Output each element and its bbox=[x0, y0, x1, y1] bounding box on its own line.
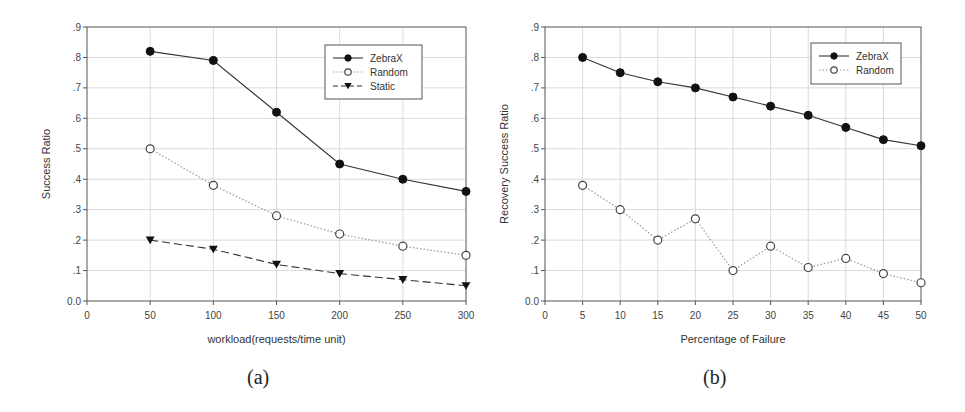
data-point bbox=[209, 181, 217, 189]
y-tick-label: 0.0 bbox=[525, 296, 539, 307]
data-point bbox=[209, 56, 217, 64]
data-point bbox=[146, 47, 154, 55]
x-tick-label: 0 bbox=[84, 310, 90, 321]
x-axis: 05101520253035404550 bbox=[542, 301, 927, 321]
y-axis: 0.0.1.2.3.4.5.6.7.8.9 bbox=[67, 22, 87, 307]
y-tick-label: .4 bbox=[531, 174, 540, 185]
data-point bbox=[767, 102, 775, 110]
data-point bbox=[273, 108, 281, 116]
data-point bbox=[879, 136, 887, 144]
series-line bbox=[583, 185, 921, 282]
legend-label: Random bbox=[856, 65, 894, 76]
data-point bbox=[842, 123, 850, 131]
legend: ZebraXRandom bbox=[811, 43, 901, 84]
data-point bbox=[399, 242, 407, 250]
y-axis-title: Recovery Success Ratio bbox=[498, 104, 510, 224]
x-tick-label: 200 bbox=[331, 310, 348, 321]
data-point bbox=[879, 270, 887, 278]
data-point bbox=[146, 145, 154, 153]
x-tick-label: 40 bbox=[840, 310, 852, 321]
legend-marker bbox=[831, 67, 837, 73]
x-tick-label: 5 bbox=[580, 310, 586, 321]
y-tick-label: .3 bbox=[531, 204, 540, 215]
y-tick-label: .9 bbox=[531, 22, 540, 33]
data-point bbox=[917, 279, 925, 287]
data-point bbox=[336, 160, 344, 168]
data-point bbox=[579, 181, 587, 189]
y-tick-label: .7 bbox=[73, 82, 82, 93]
data-point bbox=[272, 261, 281, 269]
y-tick-label: .1 bbox=[73, 265, 82, 276]
series-static bbox=[146, 237, 471, 290]
data-point bbox=[462, 251, 470, 259]
series-random bbox=[146, 145, 470, 260]
y-tick-label: .3 bbox=[73, 204, 82, 215]
caption-a: (a) bbox=[247, 366, 269, 389]
x-tick-label: 45 bbox=[878, 310, 890, 321]
x-tick-label: 35 bbox=[803, 310, 815, 321]
x-axis-title: Percentage of Failure bbox=[680, 333, 785, 345]
caption-b: (b) bbox=[703, 366, 726, 389]
data-point bbox=[804, 264, 812, 272]
data-point bbox=[842, 254, 850, 262]
legend: ZebraXRandomStatic bbox=[325, 45, 422, 99]
series-line bbox=[150, 240, 466, 286]
legend-label: Random bbox=[370, 67, 408, 78]
x-tick-label: 50 bbox=[145, 310, 157, 321]
y-axis: 0.0.1.2.3.4.5.6.7.8.9 bbox=[525, 22, 545, 307]
data-point bbox=[654, 78, 662, 86]
legend-label: ZebraX bbox=[856, 51, 889, 62]
data-point bbox=[767, 242, 775, 250]
data-point bbox=[616, 69, 624, 77]
y-tick-label: .2 bbox=[73, 235, 82, 246]
data-point bbox=[654, 236, 662, 244]
y-axis-title: Success Ratio bbox=[40, 129, 52, 199]
legend-marker bbox=[831, 53, 837, 59]
x-tick-label: 250 bbox=[394, 310, 411, 321]
data-point bbox=[399, 175, 407, 183]
chart-a-success-ratio-vs-workload: 0.0.1.2.3.4.5.6.7.8.9050100150200250300w… bbox=[40, 22, 475, 346]
data-point bbox=[804, 111, 812, 119]
x-tick-label: 50 bbox=[915, 310, 927, 321]
data-point bbox=[917, 142, 925, 150]
data-point bbox=[729, 93, 737, 101]
legend-label: ZebraX bbox=[370, 53, 403, 64]
y-tick-label: .1 bbox=[531, 265, 540, 276]
data-point bbox=[579, 53, 587, 61]
x-tick-label: 0 bbox=[542, 310, 548, 321]
x-axis: 050100150200250300 bbox=[84, 301, 475, 321]
y-tick-label: .9 bbox=[73, 22, 82, 33]
x-tick-label: 100 bbox=[205, 310, 222, 321]
data-point bbox=[616, 206, 624, 214]
data-point bbox=[729, 267, 737, 275]
figure: 0.0.1.2.3.4.5.6.7.8.9050100150200250300w… bbox=[0, 0, 965, 412]
legend-box bbox=[811, 43, 901, 84]
data-point bbox=[691, 215, 699, 223]
data-point bbox=[273, 212, 281, 220]
series-line bbox=[150, 149, 466, 256]
x-tick-label: 300 bbox=[458, 310, 475, 321]
x-tick-label: 10 bbox=[615, 310, 627, 321]
chart-b-recovery-success-vs-failure: 0.0.1.2.3.4.5.6.7.8.90510152025303540455… bbox=[498, 22, 927, 346]
x-axis-title: workload(requests/time unit) bbox=[206, 333, 345, 345]
y-tick-label: 0.0 bbox=[67, 296, 81, 307]
y-tick-label: .8 bbox=[531, 52, 540, 63]
data-point bbox=[462, 187, 470, 195]
y-tick-label: .7 bbox=[531, 82, 540, 93]
x-tick-label: 150 bbox=[268, 310, 285, 321]
data-point bbox=[691, 84, 699, 92]
y-tick-label: .2 bbox=[531, 235, 540, 246]
legend-marker bbox=[345, 55, 351, 61]
x-tick-label: 30 bbox=[765, 310, 777, 321]
y-tick-label: .5 bbox=[531, 143, 540, 154]
x-tick-label: 15 bbox=[652, 310, 664, 321]
y-tick-label: .8 bbox=[73, 52, 82, 63]
x-tick-label: 20 bbox=[690, 310, 702, 321]
y-tick-label: .4 bbox=[73, 174, 82, 185]
legend-label: Static bbox=[370, 81, 395, 92]
y-tick-label: .6 bbox=[531, 113, 540, 124]
y-tick-label: .6 bbox=[73, 113, 82, 124]
x-tick-label: 25 bbox=[727, 310, 739, 321]
y-tick-label: .5 bbox=[73, 143, 82, 154]
legend-marker bbox=[345, 69, 351, 75]
